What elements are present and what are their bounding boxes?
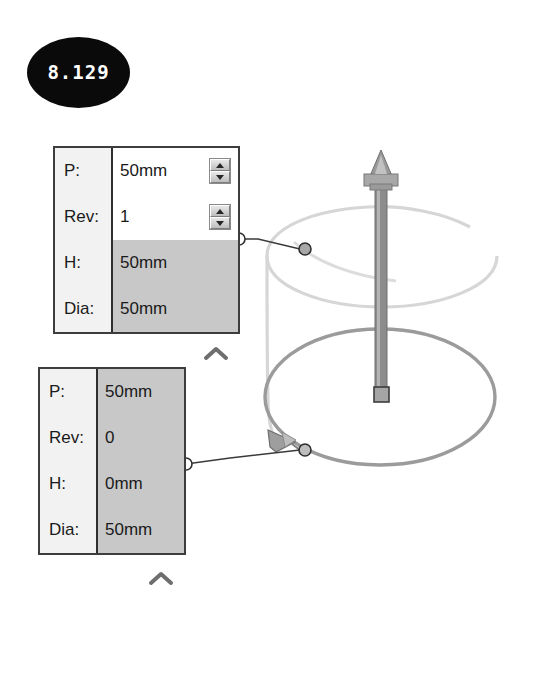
stepper-down-icon[interactable] bbox=[210, 217, 230, 229]
height-field[interactable]: 0mm bbox=[98, 461, 184, 507]
table-row[interactable]: H: 0mm bbox=[40, 461, 184, 507]
screenshot-stage: 8.129 P: 50mm Rev: 1 H: bbox=[0, 0, 533, 678]
axis-base-square-handle[interactable] bbox=[374, 387, 389, 402]
property-label: P: bbox=[40, 369, 98, 415]
property-label: H: bbox=[55, 240, 113, 286]
property-value: 1 bbox=[120, 207, 129, 227]
revolutions-field[interactable]: 1 bbox=[113, 194, 238, 240]
property-value: 50mm bbox=[120, 299, 167, 319]
pitch-field[interactable]: 50mm bbox=[113, 148, 238, 194]
table-row[interactable]: Dia: 50mm bbox=[55, 286, 238, 332]
axis-shaft bbox=[375, 178, 387, 390]
helix-panel-upper[interactable]: P: 50mm Rev: 1 H: 50mm bbox=[53, 146, 240, 334]
collapse-chevron-lower[interactable] bbox=[148, 570, 174, 586]
helix-curve-descent bbox=[267, 256, 280, 448]
property-value: 0 bbox=[105, 428, 114, 448]
stepper-down-icon[interactable] bbox=[210, 171, 230, 183]
table-row[interactable]: Rev: 1 bbox=[55, 194, 238, 240]
dimension-value-text: 8.129 bbox=[47, 63, 109, 82]
diameter-field[interactable]: 50mm bbox=[98, 507, 184, 553]
property-label: Rev: bbox=[40, 415, 98, 461]
table-row[interactable]: Dia: 50mm bbox=[40, 507, 184, 553]
chevron-up-icon[interactable] bbox=[148, 570, 174, 586]
leader-line-lower bbox=[186, 450, 300, 464]
axis-shaft-highlight bbox=[377, 178, 380, 390]
collapse-chevron-upper[interactable] bbox=[203, 345, 229, 361]
leader-line-upper bbox=[239, 239, 300, 249]
pitch-field[interactable]: 50mm bbox=[98, 369, 184, 415]
revolutions-field[interactable]: 0 bbox=[98, 415, 184, 461]
leader-endpoint-lower[interactable] bbox=[299, 444, 311, 456]
property-value: 0mm bbox=[105, 474, 143, 494]
direction-arrow-glyph bbox=[268, 430, 300, 452]
stepper-up-icon[interactable] bbox=[210, 159, 230, 171]
table-row[interactable]: H: 50mm bbox=[55, 240, 238, 286]
stepper-up-icon[interactable] bbox=[210, 205, 230, 217]
diameter-field[interactable]: 50mm bbox=[113, 286, 238, 332]
revolutions-stepper[interactable] bbox=[209, 204, 231, 230]
table-row[interactable]: P: 50mm bbox=[40, 369, 184, 415]
dimension-value-badge: 8.129 bbox=[27, 37, 130, 108]
property-value: 50mm bbox=[105, 382, 152, 402]
property-label: H: bbox=[40, 461, 98, 507]
helix-curve bbox=[267, 207, 497, 307]
property-label: Dia: bbox=[40, 507, 98, 553]
property-value: 50mm bbox=[120, 253, 167, 273]
chevron-up-icon[interactable] bbox=[203, 345, 229, 361]
leader-endpoint-upper[interactable] bbox=[299, 243, 311, 255]
axis-arrow-head bbox=[364, 150, 398, 190]
table-row[interactable]: P: 50mm bbox=[55, 148, 238, 194]
helix-curve-upper-entry bbox=[294, 242, 396, 281]
property-label: Rev: bbox=[55, 194, 113, 240]
height-field[interactable]: 50mm bbox=[113, 240, 238, 286]
property-value: 50mm bbox=[105, 520, 152, 540]
property-label: Dia: bbox=[55, 286, 113, 332]
pitch-stepper[interactable] bbox=[209, 158, 231, 184]
property-label: P: bbox=[55, 148, 113, 194]
property-value: 50mm bbox=[120, 161, 167, 181]
base-circle bbox=[265, 329, 495, 465]
table-row[interactable]: Rev: 0 bbox=[40, 415, 184, 461]
helix-panel-lower[interactable]: P: 50mm Rev: 0 H: 0mm Dia: 50mm bbox=[38, 367, 186, 555]
